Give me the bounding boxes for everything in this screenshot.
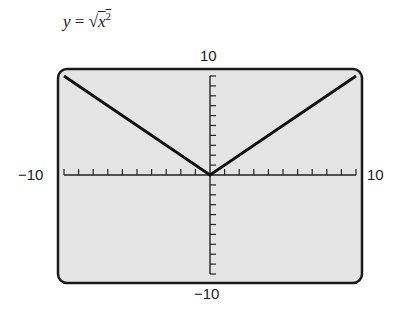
- graph-window: [0, 0, 393, 309]
